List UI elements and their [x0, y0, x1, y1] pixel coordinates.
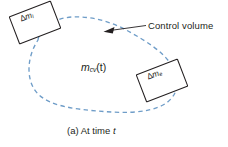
inlet-mass-element	[9, 1, 60, 44]
exit-mass-element	[136, 59, 187, 102]
caption-time-variable: t	[113, 125, 116, 136]
annotation-leader-line	[110, 26, 146, 31]
annotation-arrowhead	[104, 27, 115, 33]
cv-mass-argument: (t)	[96, 61, 106, 73]
exit-mass-box	[136, 59, 187, 102]
caption-prefix: (a) At time	[67, 125, 113, 136]
cv-mass-label: mcv(t)	[81, 62, 106, 74]
control-volume-figure: Control volume mcv(t) Δmi Δme (a) At tim…	[0, 0, 228, 147]
figure-caption: (a) At time t	[67, 126, 116, 136]
inlet-mass-box	[9, 1, 60, 44]
cv-mass-symbol: m	[81, 61, 90, 73]
control-volume-annotation-text: Control volume	[148, 21, 213, 31]
